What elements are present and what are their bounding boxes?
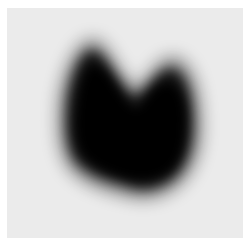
thyroid-scan-image (0, 0, 251, 246)
thyroid-uptake-region (59, 40, 200, 197)
